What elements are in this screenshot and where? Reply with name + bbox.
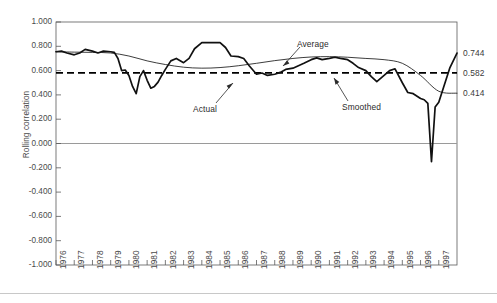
x-tick-label: 1987 [260,250,269,269]
y-tick-marks [56,22,61,265]
end-label-smoothed: 0.414 [463,88,484,98]
end-label-actual: 0.744 [463,48,484,58]
x-tick-label: 1996 [424,250,433,269]
annotation-leaders [216,47,348,103]
end-label-average: 0.582 [463,68,484,78]
arrowhead-smoothed [334,78,339,85]
annotation-actual: Actual [193,104,217,114]
annotation-average: Average [297,39,329,49]
annotation-smoothed: Smoothed [342,102,381,112]
x-tick-label: 1981 [150,250,159,269]
x-tick-label: 1980 [132,250,141,269]
x-tick-label: 1994 [387,250,396,269]
x-tick-label: 1976 [59,250,68,269]
arrowhead-average [283,60,289,66]
x-tick-label: 1982 [169,250,178,269]
x-tick-label: 1986 [241,250,250,269]
x-tick-label: 1983 [187,250,196,269]
x-tick-label: 1985 [223,250,232,269]
bottom-divider [0,293,497,294]
x-tick-label: 1990 [314,250,323,269]
x-tick-label: 1997 [442,250,451,269]
x-tick-label: 1991 [333,250,342,269]
x-tick-label: 1993 [369,250,378,269]
x-tick-label: 1992 [351,250,360,269]
x-tick-label: 1978 [96,250,105,269]
arrowhead-actual [227,83,233,89]
x-tick-label: 1989 [296,250,305,269]
chart-figure: Rolling correlation 1.000 0.800 0.600 0.… [0,0,497,303]
x-tick-label: 1977 [77,250,86,269]
x-tick-label: 1979 [114,250,123,269]
x-tick-label: 1984 [205,250,214,269]
x-tick-label: 1995 [406,250,415,269]
x-tick-label: 1988 [278,250,287,269]
